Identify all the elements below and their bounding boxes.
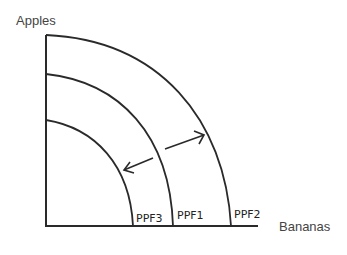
ppf3-curve [46,120,133,226]
ppf2-label: PPF2 [234,208,261,221]
ppf2-curve [46,35,231,226]
inward-shift-arrow [124,158,153,173]
ppf-diagram: PPF3 PPF1 PPF2 [0,0,347,255]
outward-shift-arrow [165,131,204,149]
ppf1-curve [46,74,173,226]
ppf1-label: PPF1 [177,209,204,222]
ppf3-label: PPF3 [136,212,163,225]
